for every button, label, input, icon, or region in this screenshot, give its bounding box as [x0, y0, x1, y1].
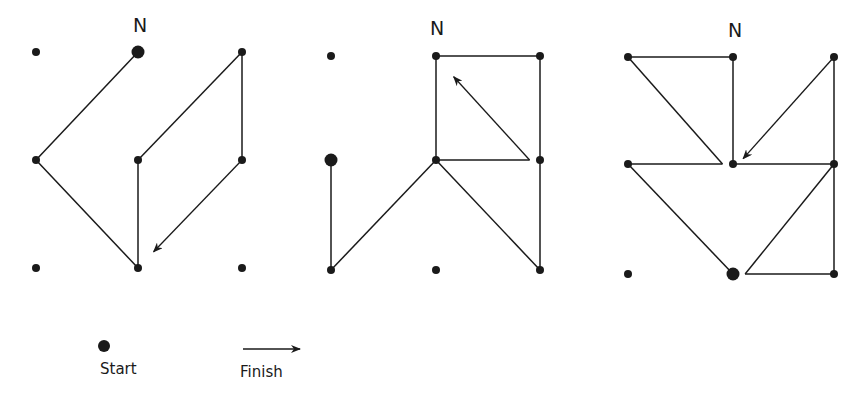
grid-point — [32, 156, 40, 164]
start-point — [325, 154, 338, 167]
path-segment — [36, 52, 138, 160]
path-segment — [331, 160, 436, 270]
grid-point — [327, 266, 335, 274]
grid-point — [830, 53, 838, 61]
finish-arrow — [454, 77, 530, 160]
grid-point — [238, 48, 246, 56]
finish-arrow — [743, 57, 834, 159]
grid-point — [432, 52, 440, 60]
legend: Start Finish — [98, 340, 300, 381]
path-segment — [36, 160, 138, 268]
grid-point — [432, 156, 440, 164]
start-marker-icon — [98, 340, 110, 352]
legend-start-label: Start — [100, 360, 137, 378]
path-segment — [628, 164, 733, 274]
start-point — [132, 46, 145, 59]
path-segment — [138, 52, 242, 160]
north-label: N — [430, 17, 444, 39]
grid-point — [32, 264, 40, 272]
diagram-2: N — [325, 17, 545, 274]
grid-point — [536, 156, 544, 164]
grid-point — [830, 160, 838, 168]
legend-finish-label: Finish — [240, 363, 283, 381]
grid-point — [327, 52, 335, 60]
grid-point — [624, 160, 632, 168]
grid-point — [32, 48, 40, 56]
path-segment — [745, 164, 834, 274]
diagram-3: N — [624, 19, 838, 281]
finish-arrow — [154, 160, 242, 252]
start-point — [727, 268, 740, 281]
grid-point — [729, 160, 737, 168]
path-segment — [628, 57, 723, 164]
grid-point — [432, 266, 440, 274]
grid-point — [238, 156, 246, 164]
grid-point — [134, 156, 142, 164]
grid-point — [624, 53, 632, 61]
route-diagrams: N N N Start Finish — [0, 0, 863, 402]
grid-point — [536, 52, 544, 60]
grid-point — [134, 264, 142, 272]
grid-point — [238, 264, 246, 272]
path-segment — [436, 160, 540, 270]
diagram-1: N — [32, 14, 246, 272]
grid-point — [729, 53, 737, 61]
north-label: N — [133, 14, 147, 36]
grid-point — [536, 266, 544, 274]
grid-point — [830, 270, 838, 278]
north-label: N — [728, 19, 742, 41]
grid-point — [624, 270, 632, 278]
